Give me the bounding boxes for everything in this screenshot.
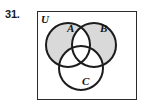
figure-root: 31. — [0, 0, 146, 107]
problem-number: 31. — [5, 8, 20, 20]
universe-label: U — [41, 14, 49, 25]
set-label-a: A — [67, 23, 74, 34]
set-label-b: B — [100, 23, 107, 34]
set-label-c: C — [82, 76, 89, 87]
